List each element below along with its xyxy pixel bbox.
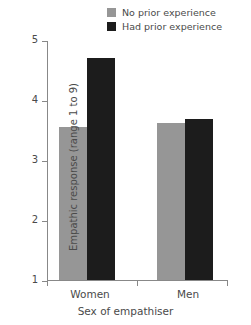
bar-men-no-prior-experience (157, 123, 185, 280)
legend-label-had-prior: Had prior experience (122, 21, 222, 32)
x-tick-middle (137, 281, 138, 286)
y-tick-label-5: 5 (32, 34, 38, 46)
y-tick-2: 2 (42, 221, 47, 222)
chart-legend: No prior experience Had prior experience (107, 6, 247, 34)
y-tick-label-2: 2 (32, 214, 38, 226)
x-tick-start (47, 281, 48, 286)
bar-men-had-prior-experience (185, 119, 213, 280)
legend-item-no-prior-experience: No prior experience (107, 6, 247, 19)
x-group-label-men: Men (158, 288, 218, 301)
y-tick-label-1: 1 (32, 274, 38, 286)
x-axis-title: Sex of empathiser (0, 305, 251, 318)
legend-swatch-had-prior-icon (107, 22, 116, 31)
plot-area: 5 4 3 2 1 Empathic response (range 1 to … (47, 41, 228, 281)
y-tick-4: 4 (42, 101, 47, 102)
y-axis-line (47, 41, 48, 282)
x-group-label-women: Women (60, 288, 120, 301)
y-tick-label-3: 3 (32, 154, 38, 166)
bar-women-had-prior-experience (87, 58, 115, 280)
legend-label-no-prior: No prior experience (122, 7, 216, 18)
bar-chart-figure: No prior experience Had prior experience… (0, 0, 251, 325)
y-axis-title: Empathic response (range 1 to 9) (68, 77, 80, 257)
x-tick-end (227, 281, 228, 286)
legend-item-had-prior-experience: Had prior experience (107, 20, 247, 33)
legend-swatch-no-prior-icon (107, 8, 116, 17)
y-tick-3: 3 (42, 161, 47, 162)
y-tick-label-4: 4 (32, 94, 38, 106)
y-tick-5: 5 (42, 41, 47, 42)
